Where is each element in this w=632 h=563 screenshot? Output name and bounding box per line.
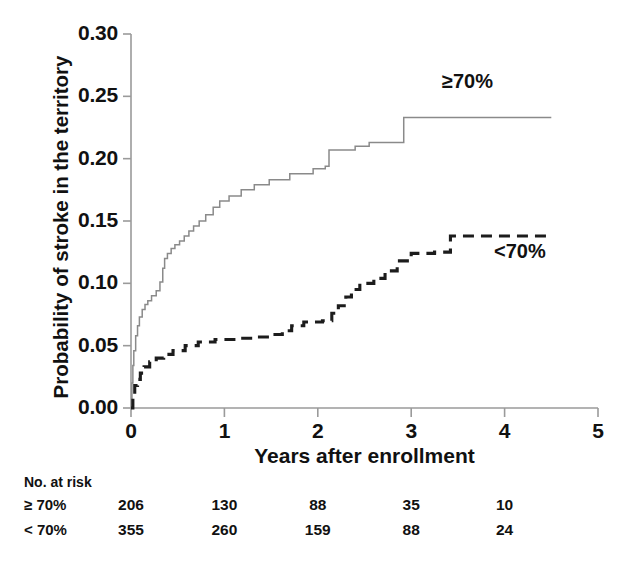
x-tick-label-1: 1 [204,419,244,443]
risk-row-label: < 70% [24,521,67,538]
x-tick-label-0: 0 [111,419,151,443]
x-axis-ticks [131,408,598,417]
risk-cell: 260 [196,521,252,539]
x-tick-label-5: 5 [578,419,618,443]
x-axis-title: Years after enrollment [131,444,598,468]
y-axis-title: Probability of stroke in the territory [49,32,73,422]
y-axis-ticks [123,34,131,408]
risk-cell: 88 [290,496,346,514]
risk-cell: 159 [290,521,346,539]
risk-cell: 10 [477,496,533,514]
risk-cell: 24 [477,521,533,539]
number-at-risk-table: No. at risk ≥ 70%206130883510< 70%355260… [24,474,624,546]
series-annotation-low-stenosis: <70% [494,240,546,263]
series-line-low-stenosis [131,236,551,408]
x-tick-label-2: 2 [298,419,338,443]
series-paths [131,118,551,408]
risk-cell: 355 [103,521,159,539]
risk-cell: 88 [383,521,439,539]
series-line-high-stenosis [131,118,551,408]
kaplan-meier-figure: 0.000.050.100.150.200.250.30 012345 Prob… [0,0,632,563]
risk-table-rows: ≥ 70%206130883510< 70%3552601598824 [24,496,624,546]
risk-table-caption: No. at risk [24,474,624,490]
x-tick-label-4: 4 [485,419,525,443]
x-tick-label-3: 3 [391,419,431,443]
series-annotation-high-stenosis: ≥70% [442,70,493,93]
risk-table-row: ≥ 70%206130883510 [24,496,624,521]
risk-table-row: < 70%3552601598824 [24,521,624,546]
risk-cell: 206 [103,496,159,514]
risk-cell: 130 [196,496,252,514]
risk-row-label: ≥ 70% [24,496,66,513]
risk-cell: 35 [383,496,439,514]
